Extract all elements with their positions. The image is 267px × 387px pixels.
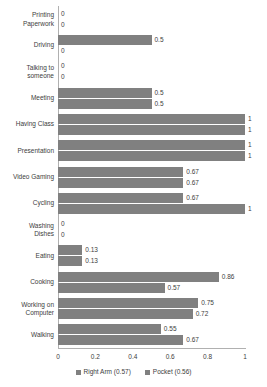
- bar-slot: 0.67: [58, 193, 245, 203]
- bar-value-label: 1: [248, 116, 252, 123]
- bar: [58, 178, 183, 188]
- bar-value-label: 0.67: [186, 179, 199, 186]
- legend-item[interactable]: Right Arm (0.57): [76, 369, 131, 376]
- category-label-line: Presentation: [0, 146, 54, 155]
- bar-slot: 0.5: [58, 88, 245, 98]
- bar: [58, 283, 165, 293]
- bar-group-item: 0.67: [58, 335, 245, 345]
- bar-value-label: 0.72: [196, 311, 209, 318]
- legend-swatch-icon: [76, 370, 81, 375]
- bar-value-label: 0.55: [164, 326, 177, 333]
- bar-slot: 0: [58, 9, 245, 19]
- category-label: Eating: [0, 252, 54, 261]
- bar-value-label: 0: [61, 10, 65, 17]
- category-label-line: Cycling: [0, 199, 54, 208]
- x-tick-label: 0.8: [198, 353, 218, 360]
- bar-value-label: 0: [61, 221, 65, 228]
- category-label-line: someone: [0, 72, 54, 81]
- category-label-line: Paperwork: [0, 19, 54, 28]
- bar-value-label: 0.86: [222, 273, 235, 280]
- bar-group-item: 0.75: [58, 298, 245, 308]
- bar-slot: 0.67: [58, 178, 245, 188]
- bar-slot: 0.5: [58, 99, 245, 109]
- category-label-line: Having Class: [0, 120, 54, 129]
- bar-group-item: 0.72: [58, 309, 245, 319]
- bar-value-label: 0.5: [155, 100, 164, 107]
- bar-group-item: 0.67: [58, 167, 245, 177]
- category-label: Driving: [0, 41, 54, 50]
- x-tick-label: 0.6: [160, 353, 180, 360]
- bar: [58, 167, 183, 177]
- category-label: Working onComputer: [0, 300, 54, 317]
- legend-label: Pocket (0.56): [153, 369, 192, 376]
- bar: [58, 272, 219, 282]
- bar-slot: 0: [58, 72, 245, 82]
- bar-value-label: 0.75: [201, 300, 214, 307]
- bar-group-item: 0.13: [58, 256, 245, 266]
- bar-group-item: 0.67: [58, 193, 245, 203]
- category-label-line: Cooking: [0, 278, 54, 287]
- bar-group-item: 0.5: [58, 88, 245, 98]
- bar-slot: 0: [58, 230, 245, 240]
- bar: [58, 245, 82, 255]
- bar-value-label: 1: [248, 206, 252, 213]
- bar-slot: 0: [58, 219, 245, 229]
- bar-group-item: 1: [58, 151, 245, 161]
- category-label: Having Class: [0, 120, 54, 129]
- bar-slot: 0.57: [58, 283, 245, 293]
- bar-value-label: 0.5: [155, 89, 164, 96]
- bar-group-item: 0.55: [58, 324, 245, 334]
- bar-value-label: 0: [61, 48, 65, 55]
- bar: [58, 256, 82, 266]
- bar-slot: 1: [58, 151, 245, 161]
- bar-value-label: 0.67: [186, 337, 199, 344]
- category-label: Cycling: [0, 199, 54, 208]
- bar-slot: 0.72: [58, 309, 245, 319]
- bar-slot: 0.86: [58, 272, 245, 282]
- category-label-line: Dishes: [0, 230, 54, 239]
- bar-slot: 0: [58, 61, 245, 71]
- bar-group-item: 0.86: [58, 272, 245, 282]
- bar-slot: 0: [58, 46, 245, 56]
- bar-value-label: 1: [248, 127, 252, 134]
- bar-slot: 0: [58, 20, 245, 30]
- category-label: Video Gaming: [0, 173, 54, 182]
- legend-item[interactable]: Pocket (0.56): [145, 369, 192, 376]
- bar-group-item: 0: [58, 230, 245, 240]
- category-label-line: Walking: [0, 331, 54, 340]
- bar-group-item: 0: [58, 9, 245, 19]
- bar-group-item: 1: [58, 114, 245, 124]
- bar: [58, 335, 183, 345]
- bar-slot: 0.13: [58, 245, 245, 255]
- category-label: PrintingPaperwork: [0, 11, 54, 28]
- bar-value-label: 0: [61, 232, 65, 239]
- bar-slot: 1: [58, 125, 245, 135]
- bar-slot: 0.75: [58, 298, 245, 308]
- bar: [58, 324, 161, 334]
- bar-slot: 1: [58, 204, 245, 214]
- bar-value-label: 0.57: [168, 284, 181, 291]
- bar: [58, 151, 245, 161]
- bar-group-item: 0: [58, 219, 245, 229]
- x-tick-label: 1: [235, 353, 255, 360]
- category-label: WashingDishes: [0, 221, 54, 238]
- x-tick-label: 0: [48, 353, 68, 360]
- x-tick-label: 0.4: [123, 353, 143, 360]
- bar-value-label: 0: [61, 74, 65, 81]
- x-axis-line: [58, 348, 246, 349]
- bar-group-item: 0.13: [58, 245, 245, 255]
- bar-value-label: 0: [61, 63, 65, 70]
- category-label-line: Computer: [0, 309, 54, 318]
- bar-slot: 0.13: [58, 256, 245, 266]
- bar-value-label: 1: [248, 142, 252, 149]
- legend-swatch-icon: [145, 370, 150, 375]
- category-label-line: Video Gaming: [0, 173, 54, 182]
- category-label: Meeting: [0, 94, 54, 103]
- bar: [58, 193, 183, 203]
- bar: [58, 309, 193, 319]
- bar-group-item: 0.57: [58, 283, 245, 293]
- bar-value-label: 0.5: [155, 37, 164, 44]
- category-label-line: Meeting: [0, 94, 54, 103]
- category-label: Cooking: [0, 278, 54, 287]
- bar-group-item: 0: [58, 20, 245, 30]
